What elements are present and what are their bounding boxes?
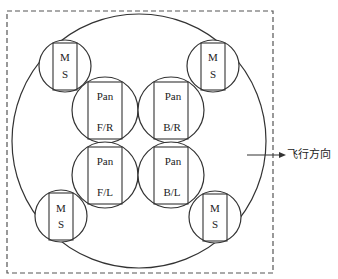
pan-fr-line2: F/R xyxy=(97,121,114,133)
pan-bl-line2: B/L xyxy=(163,186,180,198)
pan-unit-fr xyxy=(72,77,138,143)
ms-bottom-right-line2: S xyxy=(212,218,218,230)
ms-unit-top-left xyxy=(39,40,91,92)
ms-bottom-right-line1: M xyxy=(210,202,220,214)
pan-fr-line1: Pan xyxy=(97,90,114,102)
ms-unit-top-right xyxy=(187,40,239,92)
ms-circle xyxy=(187,40,239,92)
ms-top-right-line2: S xyxy=(210,68,216,80)
pan-br-line1: Pan xyxy=(165,90,182,102)
ms-circle xyxy=(35,190,87,242)
ms-top-left-line1: M xyxy=(60,51,70,63)
ms-circle xyxy=(39,40,91,92)
pan-unit-fl xyxy=(72,142,138,208)
pan-br-line2: B/R xyxy=(163,121,181,133)
pan-bl-line1: Pan xyxy=(165,155,182,167)
pan-unit-br xyxy=(138,77,204,143)
pan-fl-line2: F/L xyxy=(97,186,113,198)
pan-circle xyxy=(72,142,138,208)
ms-unit-bottom-left xyxy=(35,190,87,242)
ms-bottom-left-line1: M xyxy=(56,202,66,214)
ms-unit-bottom-right xyxy=(189,191,241,243)
pan-circle xyxy=(138,142,204,208)
ms-circle xyxy=(189,191,241,243)
pan-unit-bl xyxy=(138,142,204,208)
pan-circle xyxy=(72,77,138,143)
ms-bottom-left-line2: S xyxy=(58,218,64,230)
arrow-head-icon xyxy=(279,152,286,158)
flight-direction-label: 飞行方向 xyxy=(287,148,331,162)
ms-top-right-line1: M xyxy=(208,51,218,63)
diagram-canvas xyxy=(0,0,338,279)
ms-top-left-line2: S xyxy=(62,68,68,80)
direction-arrow xyxy=(247,152,286,158)
pan-fl-line1: Pan xyxy=(97,155,114,167)
pan-circle xyxy=(138,77,204,143)
